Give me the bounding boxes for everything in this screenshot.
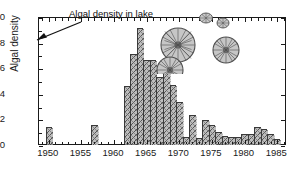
x-tick-mark	[49, 140, 50, 144]
y-tick-label: 2	[0, 114, 5, 124]
y-right-tick-mark	[281, 44, 285, 45]
x-minor-tick-mark	[75, 142, 76, 145]
diatom-small-1	[200, 13, 213, 23]
x-minor-tick-mark	[101, 142, 102, 145]
x-minor-tick-mark	[258, 142, 259, 145]
x-minor-tick-mark	[166, 142, 167, 145]
x-minor-tick-mark	[232, 142, 233, 145]
x-minor-tick-mark	[127, 142, 128, 145]
x-minor-tick-mark	[173, 142, 174, 145]
x-tick-label: 1950	[31, 148, 65, 158]
x-minor-tick-mark	[186, 142, 187, 145]
x-top-minor-tick-mark	[258, 18, 259, 21]
x-tick-mark	[179, 140, 180, 144]
x-tick-label: 1975	[194, 148, 228, 158]
y-right-tick-mark	[281, 146, 285, 147]
diatom-cells-illustration	[148, 6, 246, 74]
y-minor-tick-mark	[39, 56, 42, 57]
x-minor-tick-mark	[264, 142, 265, 145]
x-minor-tick-mark	[68, 142, 69, 145]
x-tick-mark	[114, 140, 115, 144]
x-tick-mark	[147, 140, 148, 144]
x-tick-label: 1960	[96, 148, 130, 158]
y-tick-mark	[39, 95, 43, 96]
y-tick-mark	[39, 146, 43, 147]
y-tick-mark	[39, 69, 43, 70]
bar	[170, 85, 177, 144]
x-minor-tick-mark	[218, 142, 219, 145]
y-right-tick-mark	[281, 18, 285, 19]
x-tick-label: 1955	[63, 148, 97, 158]
y-right-tick-mark	[281, 120, 285, 121]
y-tick-label: 6	[0, 63, 5, 73]
y-tick-label: 4	[0, 89, 5, 99]
y-axis-label: Algal density	[9, 4, 20, 84]
bar	[130, 54, 137, 144]
x-tick-label: 1965	[129, 148, 163, 158]
bar	[124, 86, 131, 144]
diatom-small-2	[217, 18, 229, 28]
y-minor-tick-mark	[39, 108, 42, 109]
x-minor-tick-mark	[205, 142, 206, 145]
x-minor-tick-mark	[192, 142, 193, 145]
x-minor-tick-mark	[251, 142, 252, 145]
y-minor-tick-mark	[39, 133, 42, 134]
y-tick-label: 0	[0, 140, 5, 150]
x-minor-tick-mark	[42, 142, 43, 145]
x-minor-tick-mark	[94, 142, 95, 145]
annotation-label: Algal density in lake	[69, 8, 153, 19]
x-tick-mark	[212, 140, 213, 144]
x-minor-tick-mark	[284, 142, 285, 145]
x-minor-tick-mark	[62, 142, 63, 145]
x-minor-tick-mark	[140, 142, 141, 145]
y-right-tick-mark	[281, 69, 285, 70]
x-tick-mark	[277, 140, 278, 144]
diatom-large-left	[161, 28, 195, 62]
y-tick-label: 8	[0, 38, 5, 48]
x-minor-tick-mark	[271, 142, 272, 145]
x-top-minor-tick-mark	[251, 18, 252, 21]
diatom-large-right	[213, 37, 239, 63]
x-tick-label: 1980	[227, 148, 261, 158]
x-minor-tick-mark	[225, 142, 226, 145]
x-minor-tick-mark	[160, 142, 161, 145]
x-minor-tick-mark	[134, 142, 135, 145]
bar	[176, 102, 183, 144]
y-right-tick-mark	[281, 95, 285, 96]
algal-density-chart: Algal density 0 2 4 6 8 10 1950 1955 196…	[0, 0, 296, 179]
annotation-arrow-icon	[27, 20, 83, 46]
x-top-minor-tick-mark	[264, 18, 265, 21]
x-minor-tick-mark	[199, 142, 200, 145]
bar	[189, 115, 196, 144]
x-top-tick-mark	[277, 18, 278, 22]
x-tick-label: 1985	[259, 148, 293, 158]
x-minor-tick-mark	[238, 142, 239, 145]
x-minor-tick-mark	[153, 142, 154, 145]
y-tick-label: 10	[0, 12, 5, 22]
bar	[156, 77, 163, 144]
x-minor-tick-mark	[121, 142, 122, 145]
x-minor-tick-mark	[108, 142, 109, 145]
x-minor-tick-mark	[55, 142, 56, 145]
y-minor-tick-mark	[39, 82, 42, 83]
x-tick-label: 1970	[161, 148, 195, 158]
x-tick-mark	[81, 140, 82, 144]
x-tick-mark	[245, 140, 246, 144]
x-top-minor-tick-mark	[271, 18, 272, 21]
x-minor-tick-mark	[88, 142, 89, 145]
y-tick-mark	[39, 120, 43, 121]
